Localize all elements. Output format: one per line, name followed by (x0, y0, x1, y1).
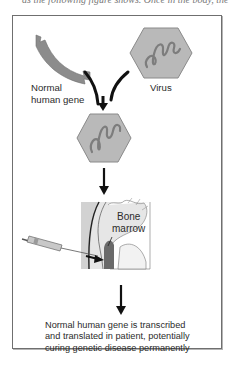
label-line: curing genetic disease permanently (45, 343, 190, 354)
label-normal-human-gene: Normal human gene (31, 82, 84, 105)
down-arrow-icon (99, 168, 109, 195)
label-result-caption: Normal human gene is transcribed and tra… (45, 320, 190, 354)
label-virus: Virus (150, 82, 172, 94)
down-arrow-icon (116, 285, 126, 315)
label-line: Normal (31, 82, 84, 94)
label-line: Bone (112, 211, 145, 223)
label-bone-marrow: Bone marrow (112, 211, 145, 234)
label-line: human gene (31, 94, 84, 106)
label-line: Normal human gene is transcribed (45, 320, 190, 331)
human-gene-icon (36, 35, 90, 84)
recombinant-virus-icon (77, 114, 131, 162)
virus-icon (130, 28, 192, 78)
merge-arrow-icon (85, 72, 128, 111)
label-line: and translated in patient, potentially (45, 331, 190, 342)
diagram-graphics (0, 0, 231, 373)
label-line: marrow (112, 223, 145, 235)
